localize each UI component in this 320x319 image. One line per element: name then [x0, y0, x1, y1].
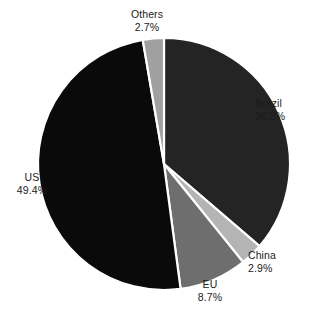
pie-label-us: US 49.4%: [4, 171, 60, 196]
pie-label-brazil: Brazil 36.3%: [255, 97, 317, 122]
pie-label-brazil-value: 36.3%: [255, 110, 317, 123]
pie-label-china-value: 2.9%: [248, 262, 308, 275]
pie-label-us-name: US: [4, 171, 60, 184]
pie-chart: Others 2.7% Brazil 36.3% China 2.9% EU 8…: [0, 0, 320, 319]
pie-label-others: Others 2.7%: [111, 8, 183, 33]
pie-label-eu-name: EU: [182, 278, 238, 291]
pie-label-us-value: 49.4%: [4, 184, 60, 197]
pie-label-china: China 2.9%: [248, 249, 308, 274]
pie-label-eu-value: 8.7%: [182, 291, 238, 304]
pie-label-brazil-name: Brazil: [255, 97, 317, 110]
pie-label-eu: EU 8.7%: [182, 278, 238, 303]
pie-label-others-value: 2.7%: [111, 21, 183, 34]
pie-label-china-name: China: [248, 249, 308, 262]
pie-label-others-name: Others: [111, 8, 183, 21]
